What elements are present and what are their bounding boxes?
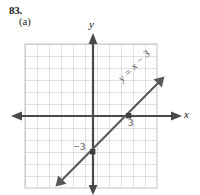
coordinate-graph — [0, 0, 200, 195]
y-axis-label: y — [89, 18, 94, 30]
x-intercept-label: 3 — [128, 117, 133, 128]
x-axis-label: x — [184, 108, 189, 120]
graph-svg — [0, 0, 200, 195]
y-intercept-label: −3 — [74, 141, 85, 152]
y-intercept-dot — [90, 149, 95, 154]
figure-container: 83. (a) — [0, 0, 200, 195]
